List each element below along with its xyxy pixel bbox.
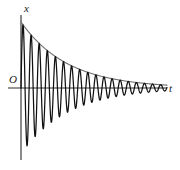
damped-oscillation-plot [0,0,180,170]
decay-envelope-curve [21,22,167,85]
y-axis-label: x [24,3,29,14]
x-axis-label: t [169,83,172,94]
origin-label: O [9,74,17,85]
damped-oscillation-figure: x t O [0,0,180,170]
damped-oscillation-curve [21,25,167,146]
